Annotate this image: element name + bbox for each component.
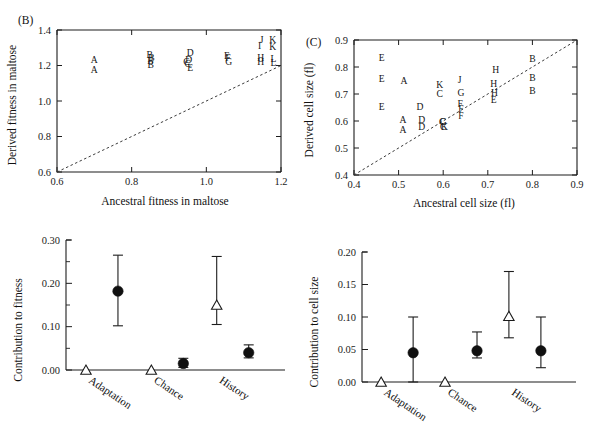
data-point-letter: B [529, 53, 535, 64]
x-tick-label: 1.0 [200, 176, 213, 187]
x-tick-label: 1.2 [274, 176, 287, 187]
panel-e-contribution-cellsize: 0.000.050.100.150.20 AdaptationChanceHis… [296, 220, 593, 440]
panel-d-ylabel: Contribution to fitness [12, 278, 24, 382]
open-triangle-marker [504, 311, 514, 320]
category-label: Adaptation [382, 386, 430, 424]
data-point-letter: J [458, 74, 462, 85]
category-label: History [510, 386, 544, 415]
panel-b-xlabel: Ancestral fitness in maltose [101, 195, 228, 207]
y-tick-label: 0.10 [338, 312, 356, 323]
y-tick-label: 0.6 [38, 167, 51, 178]
panel-c-label: (C) [306, 36, 322, 49]
panel-b-scatter: 0.60.81.01.21.40.60.81.01.2 AABBBBDDCCEE… [0, 0, 296, 220]
panel-e-svg: 0.000.050.100.150.20 AdaptationChanceHis… [296, 220, 593, 440]
y-tick-label: 1.4 [38, 25, 52, 36]
panel-c-ylabel: Derived cell size (fl) [303, 62, 316, 157]
y-tick-label: 0.00 [338, 377, 356, 388]
y-tick-label: 0.20 [338, 247, 356, 258]
data-point-letter: G [458, 87, 465, 98]
y-tick-label: 0.30 [42, 235, 60, 246]
data-point-letter: A [91, 64, 98, 75]
x-tick-label: 0.6 [50, 176, 63, 187]
panel-c-scatter: 0.40.50.60.70.80.90.40.50.60.70.80.9 EEE… [296, 0, 593, 220]
y-tick-label: 0.20 [42, 278, 60, 289]
filled-circle-marker [536, 346, 546, 356]
data-point-letter: K [441, 121, 448, 132]
panel-d-svg: 0.000.100.200.30 AdaptationChanceHistory… [0, 220, 296, 440]
axis-frame-upper [57, 30, 281, 172]
category-label: Chance [446, 386, 480, 414]
x-tick-label: 0.5 [392, 179, 405, 190]
x-tick-label: 0.7 [481, 179, 494, 190]
filled-circle-marker [472, 346, 482, 356]
data-point-letter: B [529, 85, 535, 96]
y-tick-label: 1.0 [38, 96, 51, 107]
y-tick-label: 0.05 [338, 344, 356, 355]
y-tick-label: 1.2 [38, 60, 51, 71]
figure-root: 0.60.81.01.21.40.60.81.01.2 AABBBBDDCCEE… [0, 0, 593, 440]
y-tick-label: 0.6 [335, 116, 348, 127]
category-label: Adaptation [87, 374, 135, 412]
data-point-letter: D [417, 101, 424, 112]
y-tick-label: 0.15 [338, 279, 356, 290]
x-tick-label: 0.8 [526, 179, 539, 190]
data-point-letter: K [269, 41, 276, 52]
category-label: Chance [152, 374, 186, 402]
panel-b-ylabel: Derived fitness in maltose [6, 45, 18, 165]
data-point-letter: H [492, 64, 499, 75]
data-point-letter: E [379, 52, 385, 63]
filled-circle-marker [113, 286, 123, 296]
data-point-letter: F [458, 110, 463, 121]
y-tick-label: 0.7 [335, 89, 348, 100]
x-tick-label: 0.8 [125, 176, 138, 187]
y-tick-label: 0.00 [42, 365, 60, 376]
y-tick-label: 0.8 [335, 62, 348, 73]
data-point-letter: A [400, 75, 407, 86]
panel-b-svg: 0.60.81.01.21.40.60.81.01.2 AABBBBDDCCEE… [0, 0, 296, 220]
panel-b-label: (B) [18, 14, 34, 27]
x-tick-label: 0.9 [570, 179, 583, 190]
x-tick-label: 0.6 [437, 179, 450, 190]
y-tick-label: 0.5 [335, 143, 348, 154]
data-point-letter: B [148, 59, 154, 70]
filled-circle-marker [178, 358, 188, 368]
filled-circle-marker [244, 347, 254, 357]
y-tick-label: 0.9 [335, 35, 348, 46]
x-tick-label: 0.4 [347, 179, 361, 190]
panel-c-svg: 0.40.50.60.70.80.90.40.50.60.70.80.9 EEE… [296, 0, 593, 220]
data-point-letter: B [529, 72, 535, 83]
data-point-letter: H [257, 56, 264, 67]
y-tick-label: 0.8 [38, 131, 51, 142]
data-point-letter: D [418, 121, 425, 132]
data-point-letter: I [258, 40, 261, 51]
filled-circle-marker [408, 348, 418, 358]
data-point-letter: A [400, 124, 407, 135]
panel-d-contribution-fitness: 0.000.100.200.30 AdaptationChanceHistory… [0, 220, 296, 440]
data-point-letter: L [271, 57, 277, 68]
open-triangle-marker [212, 300, 222, 309]
data-point-letter: E [187, 62, 193, 73]
data-point-letter: G [225, 56, 232, 67]
data-point-letter: E [379, 73, 385, 84]
data-point-letter: C [436, 88, 442, 99]
identity-reference-line [354, 40, 577, 175]
axis-frame [57, 30, 281, 172]
y-tick-label: 0.10 [42, 321, 60, 332]
category-label: History [218, 374, 252, 403]
identity-reference-line [57, 66, 281, 173]
data-point-letter: E [379, 101, 385, 112]
data-point-letter: E [491, 94, 497, 105]
panel-c-xlabel: Ancestral cell size (fl) [413, 197, 515, 210]
panel-e-ylabel: Contribution to cell size [308, 277, 320, 388]
